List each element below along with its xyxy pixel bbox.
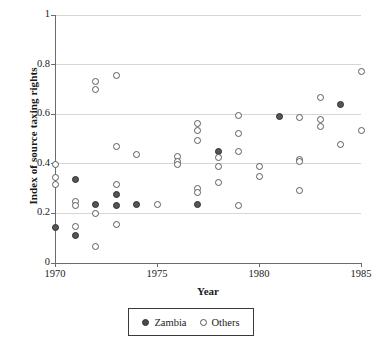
data-point-others [72,202,79,209]
legend-entry-others: Others [200,317,240,328]
data-point-others [256,173,263,180]
data-point-zambia [337,101,344,108]
data-point-others [52,174,59,181]
y-tick-label: 1 [24,9,50,19]
data-point-others [235,148,242,155]
data-point-others [113,72,120,79]
x-tick-label: 1975 [137,268,177,279]
data-point-others [358,68,365,75]
data-point-others [215,179,222,186]
data-point-others [256,163,263,170]
data-point-others [215,163,222,170]
legend-label-zambia: Zambia [154,317,186,328]
legend-label-others: Others [212,317,240,328]
gridlines [55,15,361,263]
legend-entry-zambia: Zambia [142,317,186,328]
tick-marks [51,15,361,267]
data-point-zambia [72,232,79,239]
y-tick-label: 0 [24,257,50,267]
x-axis-title: Year [55,285,361,297]
data-point-others [337,141,344,148]
data-point-zambia [113,191,120,198]
data-point-others [113,221,120,228]
data-point-others [317,94,324,101]
x-tick-label: 1970 [35,268,75,279]
open-circle-icon [200,319,207,326]
data-point-others [154,201,161,208]
filled-circle-icon [142,319,149,326]
scatter-chart: 00.20.40.60.81 1970197519801985 Index of… [0,0,380,348]
data-point-others [194,127,201,134]
data-point-others [358,127,365,134]
x-tick-label: 1980 [239,268,279,279]
data-point-others [52,181,59,188]
x-tick-label: 1985 [341,268,380,279]
data-point-others [174,161,181,168]
data-point-others [133,151,140,158]
data-point-zambia [52,224,59,231]
data-point-others [52,161,59,168]
data-point-others [92,243,99,250]
data-point-others [113,143,120,150]
data-point-others [317,123,324,130]
y-axis-title: Index of source taxing rights [27,31,39,241]
legend: Zambia Others [128,308,254,336]
